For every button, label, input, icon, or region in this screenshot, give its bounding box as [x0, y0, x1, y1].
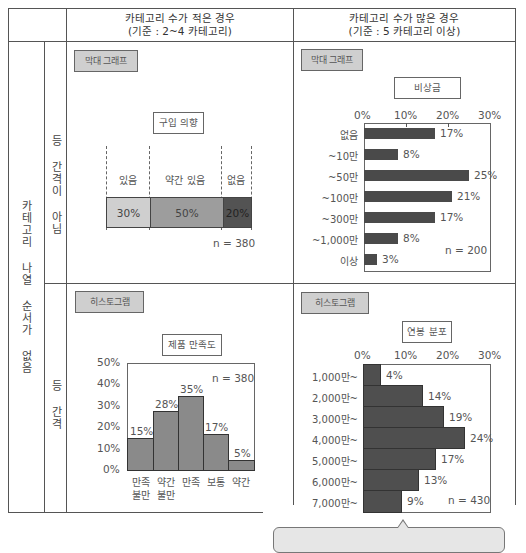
- bar-value-label: 21%: [457, 190, 480, 202]
- tick-mark: [406, 123, 407, 127]
- x-category-line: 불만: [129, 489, 153, 502]
- header-small-line2: (기준 : 2~4 카테고리): [67, 25, 293, 38]
- header-large-line1: 카테고리 수가 많은 경우: [294, 12, 515, 25]
- histogram-bar: [363, 364, 381, 386]
- bar-value-label: 17%: [205, 421, 228, 433]
- x-category-line: 약간: [154, 476, 178, 489]
- x-category-label: 보통: [204, 476, 228, 489]
- bar: [364, 170, 469, 181]
- bar-segment: 50%: [151, 198, 224, 227]
- bar: [364, 128, 435, 139]
- bar-category-label: ~50만: [300, 169, 358, 184]
- x-category-label: 약간 불만: [154, 476, 178, 502]
- bar-category-label: 7,000만~: [300, 495, 358, 510]
- bar-segment: 30%: [107, 198, 151, 227]
- bar-value-label: 25%: [474, 169, 497, 181]
- bar-value-label: 14%: [428, 390, 451, 402]
- table-border-top: [8, 8, 516, 9]
- chart-title: 연봉 분포: [402, 321, 452, 343]
- bar: [364, 254, 377, 265]
- x-tick: 20%: [436, 109, 459, 121]
- row-divider: [44, 283, 516, 284]
- bar-value-label: 28%: [155, 398, 178, 410]
- histogram-bar: [363, 490, 402, 513]
- bar-value-label: 17%: [440, 211, 463, 223]
- bar-category-label: 2,000만~: [300, 390, 358, 405]
- chart-type-tag: 막대 그래프: [301, 49, 363, 71]
- bar-category-label: 4,000만~: [300, 432, 358, 447]
- y-tick: 40%: [97, 377, 120, 389]
- y-tick: 0%: [103, 463, 120, 475]
- bar: [364, 212, 435, 223]
- category-label: 약간 있음: [149, 172, 221, 187]
- bar-category-label: ~1,000만: [300, 232, 358, 247]
- row-label-not-equal-interval: 등 간격이 아님: [47, 135, 63, 245]
- bar-category-label: ~100만: [300, 190, 358, 205]
- bar-value-label: 17%: [441, 453, 464, 465]
- histogram-bar: [363, 385, 423, 407]
- bar-value-label: 5%: [234, 447, 251, 459]
- histogram-bar: [203, 434, 229, 471]
- y-tick: 20%: [97, 420, 120, 432]
- bar: [364, 191, 452, 202]
- histogram-bar: [178, 396, 204, 471]
- bar-value-label: 8%: [403, 148, 420, 160]
- histogram-bar: [363, 469, 419, 491]
- bar-category-label: ~300만: [300, 211, 358, 226]
- table-border-bottom: [8, 512, 263, 513]
- header-small-categories: 카테고리 수가 적은 경우 (기준 : 2~4 카테고리): [67, 12, 293, 38]
- chart-type-tag: 히스토그램: [75, 291, 144, 313]
- callout-pointer-fill: [398, 521, 408, 528]
- bar-value-label: 24%: [470, 432, 493, 444]
- x-tick: 30%: [478, 349, 501, 361]
- sample-size: n = 380: [212, 372, 254, 384]
- chart-title: 비상금: [394, 77, 461, 99]
- bar-category-label: 3,000만~: [300, 411, 358, 426]
- bar-value-label: 15%: [130, 425, 153, 437]
- category-label: 있음: [106, 172, 149, 187]
- bar-category-label: 6,000만~: [300, 474, 358, 489]
- bar-value-label: 4%: [386, 369, 403, 381]
- chart-type-tag: 히스토그램: [301, 292, 369, 314]
- x-tick: 30%: [478, 109, 501, 121]
- histogram-bar: [153, 411, 179, 471]
- histogram-bar: [363, 448, 436, 470]
- chart-type-tag: 막대 그래프: [74, 50, 138, 72]
- stacked-bar: 30% 50% 20%: [106, 197, 252, 228]
- header-divider: [8, 41, 516, 42]
- sample-size: n = 430: [448, 494, 490, 506]
- y-tick: 10%: [97, 442, 120, 454]
- x-category-line: 만족: [129, 476, 153, 489]
- x-category-label: 만족 불만: [129, 476, 153, 502]
- histogram-bar: [363, 406, 444, 428]
- bar-category-label: 1,000만~: [300, 369, 358, 384]
- inner-label-divider: [44, 41, 45, 513]
- header-small-line1: 카테고리 수가 적은 경우: [67, 12, 293, 25]
- x-tick: 10%: [394, 349, 417, 361]
- y-tick: 50%: [97, 356, 120, 368]
- bar: [364, 149, 398, 160]
- x-tick: 0%: [354, 349, 371, 361]
- x-category-label: 약간: [229, 476, 253, 489]
- bar-value-label: 13%: [424, 474, 447, 486]
- bar-category-label: 없음: [300, 127, 358, 142]
- sample-size: n = 380: [213, 237, 255, 249]
- bar-value-label: 35%: [180, 383, 203, 395]
- x-category-label: 만족: [179, 476, 203, 489]
- x-tick: 10%: [394, 109, 417, 121]
- bar-category-label: 이상: [300, 253, 358, 268]
- bar-segment: 20%: [224, 198, 251, 227]
- bar-value-label: 9%: [407, 495, 424, 507]
- bar-value-label: 3%: [382, 253, 399, 265]
- histogram-bar: [127, 438, 154, 471]
- histogram-bar: [363, 427, 465, 449]
- bar-value-label: 19%: [449, 411, 472, 423]
- bar-value-label: 17%: [440, 127, 463, 139]
- callout-note: [273, 527, 505, 553]
- category-label: 없음: [221, 172, 251, 187]
- chart-title: 제품 만족도: [162, 334, 222, 356]
- header-large-line2: (기준 : 5 카테고리 이상): [294, 25, 515, 38]
- sample-size: n = 200: [445, 244, 487, 256]
- mid-col-divider: [293, 8, 294, 505]
- row-label-outer: 카테고리 나열 순서가 없음: [17, 200, 33, 400]
